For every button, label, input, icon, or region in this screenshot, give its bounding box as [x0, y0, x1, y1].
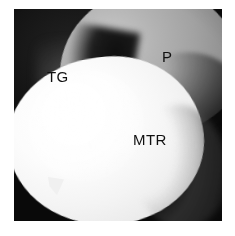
- label-medial-trochlear-ridge: MTR: [133, 132, 167, 147]
- label-patella: P: [162, 49, 172, 64]
- figure-root: TG P MTR: [0, 0, 235, 236]
- trochlear-groove-highlight: [28, 71, 148, 183]
- label-trochlear-groove: TG: [47, 69, 69, 84]
- arthroscopy-photo: TG P MTR: [14, 9, 222, 221]
